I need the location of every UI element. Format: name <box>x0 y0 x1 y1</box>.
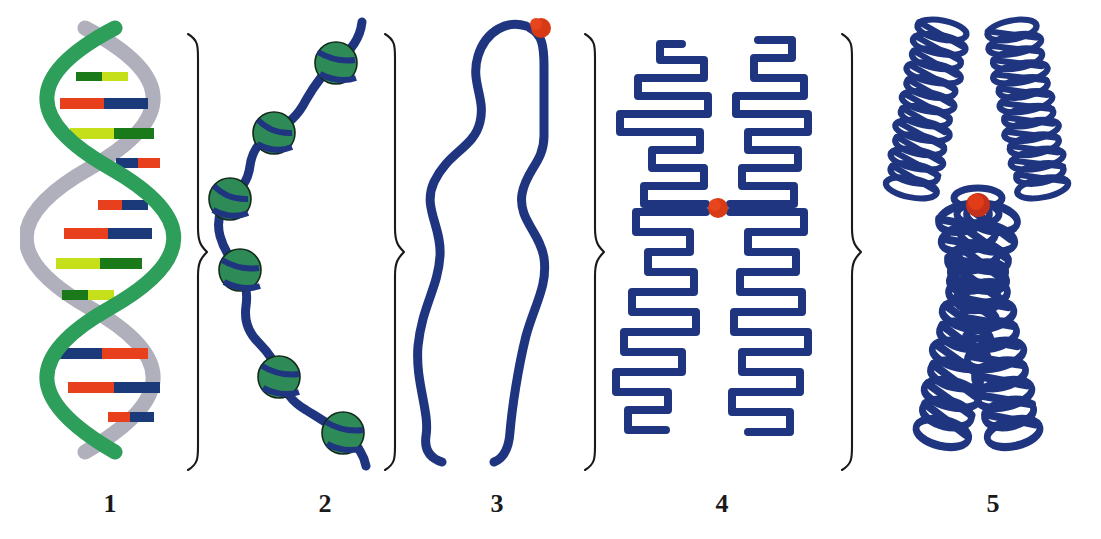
double-helix-icon <box>20 0 185 480</box>
centromere-dot <box>966 193 990 217</box>
panel-dna-double-helix <box>20 0 185 490</box>
chromatid-arm-upper-right <box>983 15 1071 202</box>
beads-on-string-icon <box>210 0 380 480</box>
chromatid-left-lower <box>616 212 706 430</box>
nucleosome-bead <box>315 42 357 84</box>
chromatin-loop-icon <box>408 0 583 480</box>
panel-nucleosomes <box>210 0 380 490</box>
chromatid-arm-upper-left <box>882 15 970 202</box>
panel-chromatin-loop <box>408 0 583 490</box>
brace-1-2 <box>184 32 210 472</box>
figure-canvas: 1 2 3 4 5 <box>0 0 1101 539</box>
nucleosome-bead <box>219 249 261 291</box>
linker-dna <box>218 22 366 466</box>
brace-2-3 <box>381 32 407 472</box>
x-chromosome-icon <box>866 0 1086 480</box>
panel-label-4: 4 <box>692 489 752 519</box>
panel-metaphase-chromosome <box>866 0 1086 490</box>
brace-4-5 <box>838 32 864 472</box>
chromatid-right-lower <box>730 212 808 432</box>
nucleosome-bead <box>253 112 295 154</box>
panel-label-2: 2 <box>295 489 355 519</box>
panel-label-5: 5 <box>963 489 1023 519</box>
chromatin-fiber-left <box>418 24 526 462</box>
chromatid-left-upper <box>620 44 708 204</box>
nucleosome-bead <box>258 356 300 398</box>
folded-chromatid-icon <box>608 0 840 480</box>
brace-3-4 <box>581 32 607 472</box>
nucleosome-bead <box>209 178 251 220</box>
chromatin-fiber-right <box>494 28 545 462</box>
panel-label-3: 3 <box>467 489 527 519</box>
panel-label-1: 1 <box>80 489 140 519</box>
chromatid-right-upper <box>730 40 808 204</box>
nucleosome-bead <box>322 412 364 454</box>
panel-condensing-chromatids <box>608 0 840 490</box>
centromere-dot <box>708 198 728 218</box>
